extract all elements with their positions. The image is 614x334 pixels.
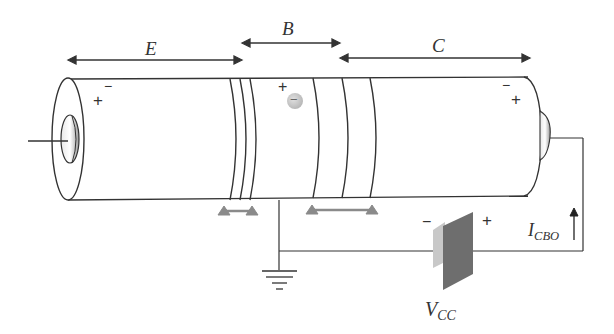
transistor-diagram: [0, 0, 614, 334]
base-plus-sign: +: [278, 79, 287, 95]
icbo-label-sub: CBO: [534, 229, 559, 243]
ground-icon: [262, 271, 297, 289]
vcc-label: VCC: [425, 299, 456, 323]
emitter-plus-sign: +: [93, 92, 103, 109]
circuit-wires: [279, 138, 583, 270]
vcc-label-main: V: [425, 298, 437, 320]
current-arrow-icon: [570, 208, 578, 240]
depletion-region-markers: [218, 205, 378, 215]
battery-vcc-icon: [433, 212, 473, 290]
collector-label: C: [432, 36, 445, 55]
base-span-arrow: [242, 39, 340, 47]
emitter-label: E: [145, 39, 157, 58]
vcc-label-sub: CC: [437, 308, 456, 323]
emitter-minus-sign: −: [104, 79, 112, 93]
battery-minus-sign: −: [422, 214, 431, 230]
collector-terminal: [540, 111, 550, 160]
base-label: B: [282, 19, 294, 38]
collector-minus-sign: −: [502, 78, 510, 92]
battery-plus-sign: +: [482, 212, 492, 229]
collector-plus-sign: +: [511, 91, 521, 108]
icbo-label: ICBO: [528, 221, 559, 242]
carrier-minus-sign: −: [290, 93, 298, 106]
